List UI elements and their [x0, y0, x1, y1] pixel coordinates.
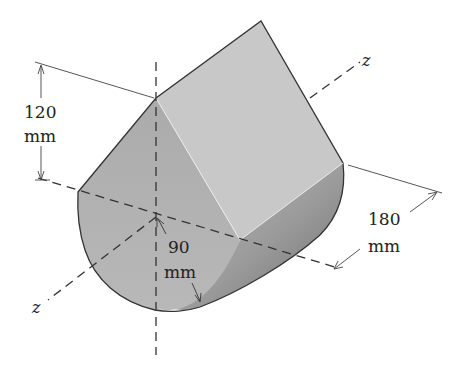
dim-120-value: 120 — [24, 102, 56, 122]
dim-90-unit: mm — [164, 262, 196, 282]
z-axis-upper — [310, 62, 360, 98]
z-axis-label-upper: z — [361, 51, 371, 70]
dim-180-unit: mm — [368, 236, 400, 256]
dim-90-value: 90 — [168, 237, 190, 257]
dim-180-value: 180 — [368, 209, 400, 229]
dim-120-unit: mm — [24, 126, 56, 146]
z-axis-label-lower: z — [31, 298, 41, 317]
diagram-canvas: 120 mm 180 mm 90 mm z z — [0, 0, 456, 375]
